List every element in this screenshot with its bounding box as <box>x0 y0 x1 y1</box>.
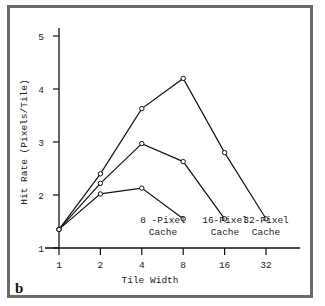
series-label: 32-Pixel <box>243 215 289 226</box>
y-tick-label: 2 <box>38 191 44 202</box>
data-point-marker <box>57 227 61 231</box>
x-tick-label: 1 <box>56 260 62 271</box>
x-axis-label: Tile Width <box>121 275 178 286</box>
x-tick-label: 2 <box>98 260 104 271</box>
series-label: Cache <box>211 227 240 238</box>
data-point-marker <box>181 159 185 163</box>
series-line <box>59 78 266 229</box>
series-label: Cache <box>252 227 281 238</box>
x-tick-label: 16 <box>219 260 231 271</box>
x-tick-label: 32 <box>260 260 272 271</box>
y-tick-label: 1 <box>38 244 44 255</box>
data-point-marker <box>140 106 144 110</box>
series-group <box>57 76 268 231</box>
y-axis-label: Hit Rate (Pixels/Tile) <box>19 79 30 204</box>
hit-rate-chart: 1234512481632 8 -PixelCache16-PixelCache… <box>0 0 325 306</box>
data-point-marker <box>140 141 144 145</box>
series-labels: 8 -PixelCache16-PixelCache32-PixelCache <box>140 215 289 238</box>
y-tick-label: 3 <box>38 138 44 149</box>
series-label: Cache <box>149 227 178 238</box>
data-point-marker <box>222 150 226 154</box>
data-point-marker <box>140 186 144 190</box>
data-point-marker <box>98 172 102 176</box>
series-label: 16-Pixel <box>202 215 248 226</box>
panel-label: b <box>15 280 23 296</box>
data-point-marker <box>181 76 185 80</box>
series-label: 8 -Pixel <box>140 215 186 226</box>
data-point-marker <box>98 181 102 185</box>
y-tick-label: 4 <box>38 85 44 96</box>
data-point-marker <box>98 192 102 196</box>
y-tick-label: 5 <box>38 32 44 43</box>
x-tick-label: 4 <box>139 260 145 271</box>
x-tick-label: 8 <box>180 260 186 271</box>
